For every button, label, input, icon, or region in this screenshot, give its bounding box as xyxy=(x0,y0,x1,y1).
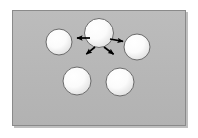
sphere-center xyxy=(85,19,114,48)
sphere-left xyxy=(46,29,72,55)
figure-canvas xyxy=(0,0,198,138)
sphere-bottom-left xyxy=(63,67,91,95)
sphere-right xyxy=(124,34,150,60)
sphere-bottom-right xyxy=(106,68,134,96)
figure-root xyxy=(0,0,198,138)
